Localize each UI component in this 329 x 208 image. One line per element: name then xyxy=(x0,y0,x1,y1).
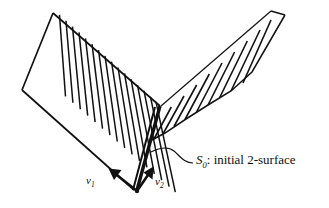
vector-label-v1: v1 xyxy=(86,175,95,189)
surface-caption-description: initial 2-surface xyxy=(214,152,296,167)
right-panel-hatching xyxy=(154,20,271,139)
vector-label-v2: v2 xyxy=(155,176,164,190)
vector-label-v2-subscript: 2 xyxy=(160,181,164,190)
vector-arrows xyxy=(109,167,154,194)
vector-label-v1-subscript: 1 xyxy=(91,180,95,189)
surface-caption: S0: initial 2-surface xyxy=(196,153,296,169)
figure-drawing xyxy=(0,0,329,208)
surface-caption-separator: : xyxy=(207,152,211,167)
figure-container: v1 v2 S0: initial 2-surface xyxy=(0,0,329,208)
right-panel xyxy=(152,11,285,140)
left-panel xyxy=(22,13,175,192)
arrow-v1 xyxy=(109,169,138,192)
right-panel-outline xyxy=(152,11,285,140)
